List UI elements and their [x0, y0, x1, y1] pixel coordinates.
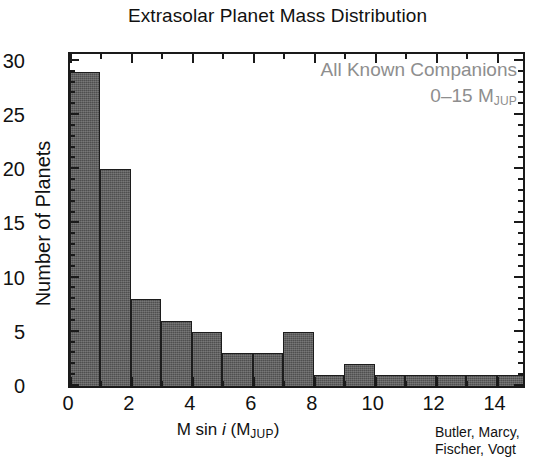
histogram-bar	[283, 332, 313, 386]
histogram-bar	[375, 375, 405, 386]
x-tick-major	[131, 377, 133, 386]
histogram-bar	[161, 321, 191, 386]
chart-title: Extrasolar Planet Mass Distribution	[0, 5, 555, 27]
y-tick-minor-right	[518, 286, 523, 288]
y-tick-minor	[70, 146, 75, 148]
y-tick-minor	[70, 156, 75, 158]
y-tick-minor	[70, 135, 75, 137]
x-tick-major	[314, 377, 316, 386]
y-tick-minor-right	[518, 178, 523, 180]
y-tick-minor	[70, 351, 75, 353]
y-tick-major	[70, 330, 79, 332]
y-axis-label: Number of Planets	[32, 89, 55, 359]
y-tick-label: 20	[0, 158, 25, 181]
x-tick-minor-top	[100, 54, 102, 59]
y-tick-minor-right	[518, 102, 523, 104]
y-tick-minor-right	[518, 254, 523, 256]
y-tick-minor-right	[518, 200, 523, 202]
y-tick-minor-right	[518, 189, 523, 191]
x-tick-major	[375, 377, 377, 386]
histogram-bar	[100, 169, 130, 386]
y-tick-minor-right	[518, 362, 523, 364]
y-tick-major	[70, 59, 79, 61]
x-axis-label-paren-close: )	[274, 420, 280, 439]
y-tick-major-right	[514, 113, 523, 115]
x-tick-major-top	[314, 54, 316, 63]
y-tick-minor-right	[518, 91, 523, 93]
y-tick-minor-right	[518, 341, 523, 343]
x-tick-minor	[222, 381, 224, 386]
credit-line-1: Butler, Marcy,	[435, 424, 545, 441]
y-tick-minor-right	[518, 211, 523, 213]
y-tick-minor	[70, 189, 75, 191]
y-tick-minor	[70, 178, 75, 180]
y-tick-minor	[70, 362, 75, 364]
x-tick-label: 2	[107, 392, 151, 415]
y-tick-major-right	[514, 330, 523, 332]
y-tick-major	[70, 113, 79, 115]
y-tick-label: 25	[0, 104, 25, 127]
x-axis-label: M sin i (MJUP)	[68, 420, 388, 441]
y-tick-major-right	[514, 167, 523, 169]
y-tick-minor-right	[518, 243, 523, 245]
x-tick-minor-top	[222, 54, 224, 59]
x-tick-minor	[344, 381, 346, 386]
histogram-bar	[344, 364, 374, 386]
histogram-bar	[192, 332, 222, 386]
histogram-bar	[405, 375, 435, 386]
y-tick-major	[70, 167, 79, 169]
y-tick-label: 30	[0, 50, 25, 73]
x-tick-major	[253, 377, 255, 386]
x-tick-label: 4	[168, 392, 212, 415]
y-tick-major	[70, 276, 79, 278]
y-tick-minor-right	[518, 70, 523, 72]
x-tick-minor-top	[283, 54, 285, 59]
y-tick-minor	[70, 319, 75, 321]
x-tick-label: 14	[473, 392, 517, 415]
x-tick-major-top	[253, 54, 255, 63]
y-tick-minor-right	[518, 265, 523, 267]
y-tick-major-right	[514, 221, 523, 223]
histogram-bar	[253, 353, 283, 386]
histogram-bar	[314, 375, 344, 386]
histogram-bar	[466, 375, 496, 386]
y-tick-minor-right	[518, 297, 523, 299]
x-tick-minor	[100, 381, 102, 386]
x-tick-label: 12	[412, 392, 456, 415]
y-tick-minor	[70, 102, 75, 104]
x-axis-label-subscript: JUP	[250, 427, 273, 441]
annotation-mass-range: 0–15 MJUP	[321, 84, 517, 109]
y-tick-minor-right	[518, 146, 523, 148]
y-tick-minor	[70, 286, 75, 288]
annotation-mass-range-subscript: JUP	[494, 94, 517, 108]
x-tick-major	[436, 377, 438, 386]
y-tick-major	[70, 221, 79, 223]
x-tick-minor	[283, 381, 285, 386]
y-tick-major-right	[514, 384, 523, 386]
y-tick-minor-right	[518, 124, 523, 126]
y-tick-minor	[70, 265, 75, 267]
y-tick-minor	[70, 254, 75, 256]
credit-line-2: Fischer, Vogt	[435, 441, 545, 458]
y-tick-label: 0	[0, 375, 25, 398]
x-tick-minor	[161, 381, 163, 386]
figure-canvas: Extrasolar Planet Mass Distribution 0246…	[0, 0, 555, 470]
annotation-mass-range-text: 0–15 M	[430, 85, 493, 106]
y-tick-minor-right	[518, 156, 523, 158]
y-tick-minor-right	[518, 135, 523, 137]
x-tick-major	[192, 377, 194, 386]
y-tick-minor	[70, 297, 75, 299]
y-tick-minor	[70, 124, 75, 126]
y-tick-minor	[70, 81, 75, 83]
annotation-block: All Known Companions 0–15 MJUP	[321, 58, 517, 109]
y-tick-minor-right	[518, 81, 523, 83]
y-tick-label: 5	[0, 321, 25, 344]
y-tick-minor	[70, 373, 75, 375]
x-tick-minor-top	[161, 54, 163, 59]
y-tick-major-right	[514, 276, 523, 278]
x-axis-label-paren-open: (M	[226, 420, 251, 439]
x-tick-minor	[405, 381, 407, 386]
histogram-bar	[131, 299, 161, 386]
y-tick-minor-right	[518, 373, 523, 375]
y-tick-label: 15	[0, 212, 25, 235]
